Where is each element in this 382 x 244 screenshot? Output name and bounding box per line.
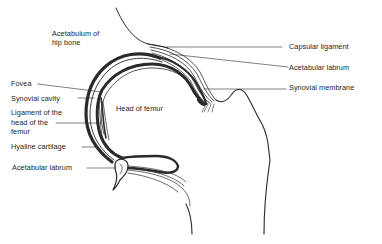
- label-synovial-membrane: Synovial membrane: [289, 83, 354, 92]
- label-synovial-cavity: Synovial cavity: [11, 94, 60, 103]
- label-acetabulum-line-2: hip bone: [52, 38, 99, 47]
- hip-joint-diagram: Acetabulum of hip bone Fovea Synovial ca…: [0, 0, 382, 244]
- label-ligament-line-1: Ligament of the: [11, 108, 62, 118]
- label-capsular-ligament: Capsular ligament: [289, 42, 349, 51]
- label-acetabular-labrum-right: Acetabular labrum: [289, 63, 349, 72]
- label-hyaline-cartilage: Hyaline cartilage: [11, 142, 66, 151]
- label-fovea: Fovea: [11, 79, 32, 88]
- label-acetabulum-of-hip-bone: Acetabulum of hip bone: [52, 29, 99, 47]
- label-ligament-line-2: head of the: [11, 118, 62, 128]
- label-acetabular-labrum-left: Acetabular labrum: [12, 163, 72, 172]
- label-ligament-of-head-of-femur: Ligament of the head of the femur: [11, 108, 62, 137]
- label-ligament-line-3: femur: [11, 127, 62, 137]
- label-acetabulum-line-1: Acetabulum of: [52, 29, 99, 38]
- label-head-of-femur: Head of femur: [116, 104, 163, 113]
